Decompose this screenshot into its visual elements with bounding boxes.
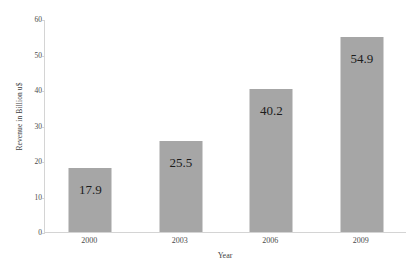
y-axis-tick-label: 40 xyxy=(22,87,42,95)
bar-chart-figure: Revenue in Billion u$ 0102030405060 17.9… xyxy=(0,0,414,268)
x-axis-tick-label: 2009 xyxy=(353,237,369,245)
bar-slot: 54.9 xyxy=(317,20,408,232)
bar-value-label: 17.9 xyxy=(79,183,102,196)
bar-slot: 40.2 xyxy=(226,20,317,232)
bar-value-label: 40.2 xyxy=(260,104,283,117)
y-axis-tick-mark xyxy=(42,233,45,234)
x-axis-tick-label: 2000 xyxy=(81,237,97,245)
bars-layer: 17.925.540.254.9 xyxy=(45,20,406,232)
y-axis-tick-mark xyxy=(42,56,45,57)
y-axis-tick-label: 10 xyxy=(22,194,42,202)
x-axis-title: Year xyxy=(44,252,406,260)
bar-value-label: 25.5 xyxy=(169,156,192,169)
y-axis-tick-label: 50 xyxy=(22,52,42,60)
bar[interactable] xyxy=(340,37,383,232)
y-axis-tick-mark xyxy=(42,127,45,128)
bar[interactable] xyxy=(69,168,112,232)
x-axis-tick-labels: 2000200320062009 xyxy=(44,237,406,251)
plot-area: 17.925.540.254.9 xyxy=(44,20,406,233)
y-axis-tick-mark xyxy=(42,20,45,21)
x-axis-tick-label: 2003 xyxy=(172,237,188,245)
y-axis-tick-label: 60 xyxy=(22,16,42,24)
y-axis-tick-mark xyxy=(42,162,45,163)
y-axis-tick-labels: 0102030405060 xyxy=(20,0,42,268)
y-axis-tick-label: 30 xyxy=(22,123,42,131)
y-axis-tick-label: 20 xyxy=(22,158,42,166)
bar-value-label: 54.9 xyxy=(350,52,373,65)
y-axis-tick-label: 0 xyxy=(22,229,42,237)
y-axis-tick-mark xyxy=(42,91,45,92)
bar-slot: 25.5 xyxy=(136,20,227,232)
bar-slot: 17.9 xyxy=(45,20,136,232)
y-axis-tick-mark xyxy=(42,198,45,199)
x-axis-tick-label: 2006 xyxy=(262,237,278,245)
